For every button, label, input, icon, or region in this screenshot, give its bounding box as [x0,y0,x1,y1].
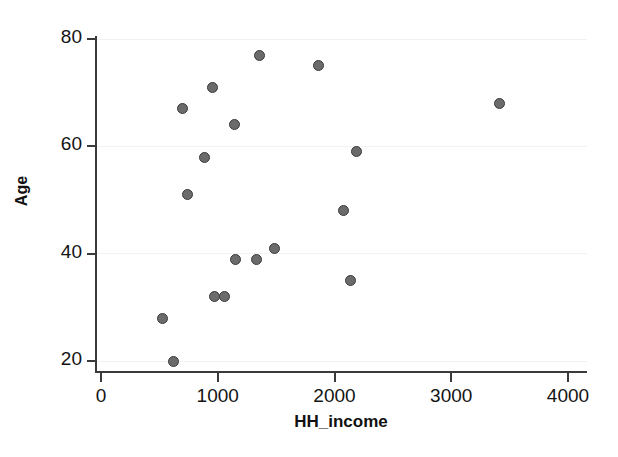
x-tick-mark [100,373,102,382]
data-point [182,189,193,200]
y-axis-line [95,36,97,373]
y-tick-label: 20 [38,348,82,372]
data-point [269,243,280,254]
data-point [254,50,265,61]
x-tick-mark [217,373,219,382]
gridline-y [97,253,587,254]
y-tick-mark [87,38,96,40]
x-axis-title: HH_income [95,412,587,432]
x-tick-mark [567,373,569,382]
data-point [219,291,230,302]
data-point [351,146,362,157]
y-tick-label: 60 [38,133,82,157]
y-axis-title: Age [13,151,31,231]
gridline-y [97,39,587,40]
data-point [494,98,505,109]
data-point [313,60,324,71]
y-tick-label: 40 [38,241,82,265]
x-tick-mark [450,373,452,382]
y-tick-mark [87,360,96,362]
data-point [157,313,168,324]
x-tick-label: 1000 [178,385,258,407]
data-point [345,275,356,286]
data-point [338,205,349,216]
x-tick-label: 0 [61,385,141,407]
scatter-plot-figure: 20406080 01000200030004000 Age HH_income [0,0,618,457]
data-point [207,82,218,93]
x-tick-label: 4000 [528,385,608,407]
y-tick-label-text: 80 [42,26,82,48]
data-point [230,254,241,265]
gridline-y [97,146,587,147]
y-tick-label: 80 [38,26,82,50]
y-tick-label-text: 40 [42,241,82,263]
x-tick-label: 3000 [411,385,491,407]
x-tick-mark [334,373,336,382]
plot-area: 20406080 01000200030004000 Age HH_income [0,0,618,457]
data-point [168,356,179,367]
y-tick-mark [87,145,96,147]
data-point [199,152,210,163]
data-point [177,103,188,114]
x-axis-line [95,371,587,373]
y-tick-mark [87,253,96,255]
data-point [209,291,220,302]
data-point [251,254,262,265]
data-point [229,119,240,130]
x-tick-label: 2000 [295,385,375,407]
y-tick-label-text: 20 [42,348,82,370]
y-tick-label-text: 60 [42,133,82,155]
